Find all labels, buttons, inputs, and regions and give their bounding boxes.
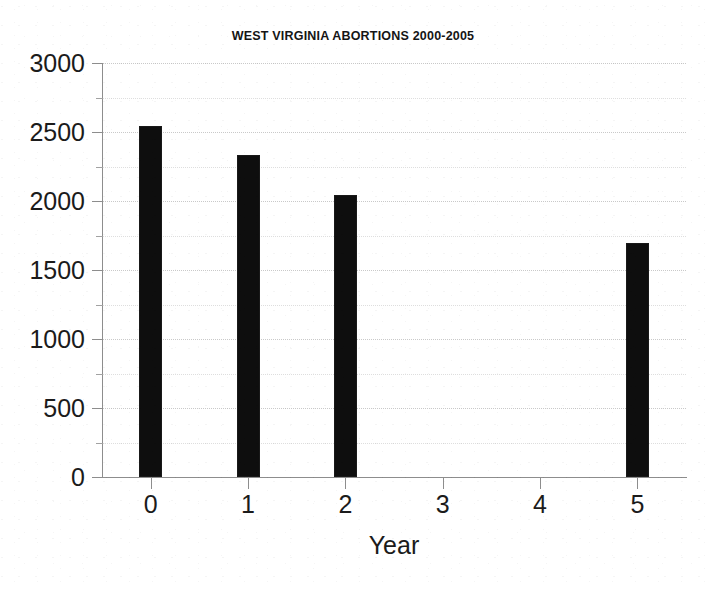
gridline-y-500 — [102, 408, 686, 409]
y-axis-label-1000: 1000 — [5, 327, 85, 352]
x-axis-label-0: 0 — [121, 492, 181, 517]
y-axis-label-500: 500 — [5, 396, 85, 421]
y-tick-3000 — [92, 63, 103, 64]
y-axis-label-1500: 1500 — [5, 258, 85, 283]
y-tick-minor-250 — [96, 443, 103, 444]
y-tick-2000 — [92, 201, 103, 202]
y-axis-tick-labels: 050010001500200025003000 — [0, 0, 85, 593]
y-tick-0 — [92, 477, 103, 478]
gridline-y-1500 — [102, 270, 686, 271]
x-tick-3 — [443, 478, 444, 489]
y-tick-1500 — [92, 270, 103, 271]
y-tick-minor-1750 — [96, 236, 103, 237]
x-tick-5 — [637, 478, 638, 489]
x-axis-label-5: 5 — [607, 492, 667, 517]
y-tick-1000 — [92, 339, 103, 340]
y-tick-2500 — [92, 132, 103, 133]
y-tick-minor-750 — [96, 374, 103, 375]
y-tick-minor-2250 — [96, 167, 103, 168]
x-axis-line — [102, 477, 687, 478]
gridline-minor-y-2750 — [102, 98, 686, 99]
y-axis-label-3000: 3000 — [5, 51, 85, 76]
x-axis-label-3: 3 — [413, 492, 473, 517]
bar-chart-figure: WEST VIRGINIA ABORTIONS 2000-2005 050010… — [0, 0, 706, 593]
x-tick-2 — [345, 478, 346, 489]
gridline-minor-y-2250 — [102, 167, 686, 168]
bar-5 — [626, 243, 649, 477]
gridline-minor-y-250 — [102, 443, 686, 444]
gridline-minor-y-750 — [102, 374, 686, 375]
x-tick-0 — [151, 478, 152, 489]
y-axis-label-2000: 2000 — [5, 189, 85, 214]
x-axis-label-2: 2 — [315, 492, 375, 517]
x-axis-label-4: 4 — [510, 492, 570, 517]
gridline-y-2500 — [102, 132, 686, 133]
gridline-minor-y-1250 — [102, 305, 686, 306]
y-tick-minor-1250 — [96, 305, 103, 306]
x-axis-label-1: 1 — [218, 492, 278, 517]
bar-1 — [237, 155, 260, 477]
bar-2 — [334, 195, 357, 477]
y-axis-label-0: 0 — [5, 465, 85, 490]
gridline-y-2000 — [102, 201, 686, 202]
y-axis-label-2500: 2500 — [5, 120, 85, 145]
y-tick-500 — [92, 408, 103, 409]
gridline-y-3000 — [102, 63, 686, 64]
x-tick-4 — [540, 478, 541, 489]
gridline-y-1000 — [102, 339, 686, 340]
y-tick-minor-2750 — [96, 98, 103, 99]
plot-area — [102, 63, 686, 477]
gridline-minor-y-1750 — [102, 236, 686, 237]
x-axis-title: Year — [102, 531, 686, 560]
chart-title: WEST VIRGINIA ABORTIONS 2000-2005 — [0, 29, 706, 43]
bar-0 — [139, 126, 162, 477]
x-tick-1 — [248, 478, 249, 489]
